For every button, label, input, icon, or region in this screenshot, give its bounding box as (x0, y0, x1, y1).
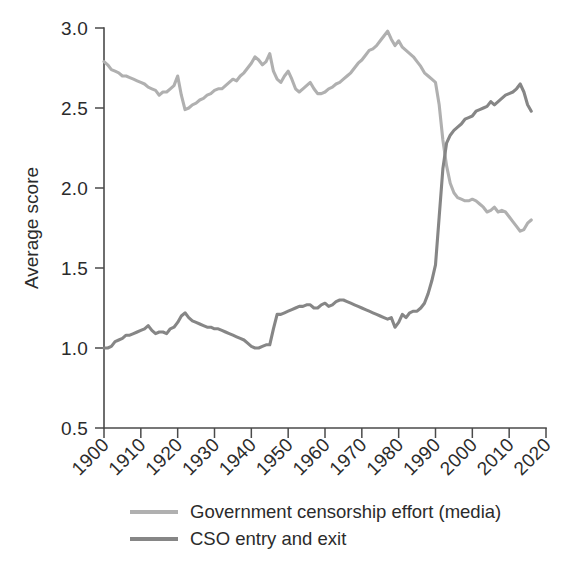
x-tick-label: 2000 (436, 434, 481, 479)
y-tick-label: 3.0 (61, 18, 88, 39)
y-axis-group: 0.51.01.52.02.53.0 Average score (21, 18, 104, 439)
x-tick-label: 1970 (325, 434, 370, 479)
chart-svg: 0.51.01.52.02.53.0 Average score 1900191… (0, 0, 583, 580)
y-tick-group: 0.51.01.52.02.53.0 (61, 18, 104, 439)
series-group (104, 31, 531, 348)
y-tick-label: 1.5 (61, 258, 88, 279)
y-tick-label: 0.5 (61, 418, 88, 439)
chart-figure: 0.51.01.52.02.53.0 Average score 1900191… (0, 0, 583, 580)
series-line-0 (104, 31, 531, 231)
x-tick-label: 1990 (399, 434, 444, 479)
x-tick-group: 1900191019201930194019501960197019801990… (68, 428, 555, 479)
x-tick-label: 1920 (141, 434, 186, 479)
x-tick-label: 1930 (178, 434, 223, 479)
legend-label-0: Government censorship effort (media) (190, 501, 501, 522)
x-tick-label: 2020 (510, 434, 555, 479)
x-tick-label: 1980 (362, 434, 407, 479)
y-axis-title: Average score (21, 167, 42, 289)
x-tick-label: 1950 (252, 434, 297, 479)
y-tick-label: 2.5 (61, 98, 88, 119)
series-line-1 (104, 84, 531, 348)
y-tick-label: 2.0 (61, 178, 88, 199)
x-tick-label: 1910 (104, 434, 149, 479)
x-tick-label: 1940 (215, 434, 260, 479)
y-tick-label: 1.0 (61, 338, 88, 359)
x-tick-label: 1960 (289, 434, 334, 479)
x-tick-label: 2010 (473, 434, 518, 479)
chart-legend: Government censorship effort (media)CSO … (130, 501, 501, 549)
x-tick-label: 1900 (68, 434, 113, 479)
x-axis-group: 1900191019201930194019501960197019801990… (68, 428, 555, 479)
legend-label-1: CSO entry and exit (190, 528, 346, 549)
